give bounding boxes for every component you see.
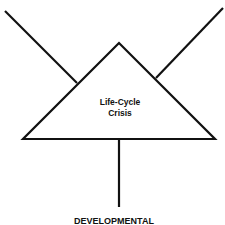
upper-left-branch-line: [5, 11, 77, 83]
triangle-label-line1: Life-Cycle: [100, 97, 141, 107]
upper-right-branch-line: [156, 8, 223, 78]
developmental-label: DEVELOPMENTAL: [74, 216, 154, 225]
triangle-label-line2: Crisis: [108, 108, 132, 118]
diagram-canvas: Life-Cycle Crisis DEVELOPMENTAL: [0, 0, 225, 225]
